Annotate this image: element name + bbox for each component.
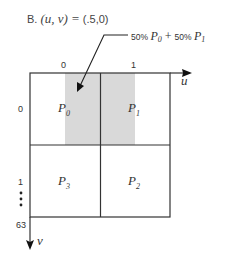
- v-ellipsis-dot: [20, 204, 23, 207]
- v-tick-1: 1: [18, 177, 23, 187]
- cell-label-p3: P3: [58, 173, 70, 191]
- callout-var-b: P1: [194, 29, 205, 43]
- title-equals: =: [71, 11, 80, 26]
- v-axis-label: v: [37, 233, 43, 249]
- v-tick-63: 63: [16, 220, 26, 230]
- v-ellipsis-dot: [20, 198, 23, 201]
- title-lhs: (u, v): [40, 11, 67, 26]
- figure-title: B. (u, v) = (.5,0): [27, 11, 109, 27]
- title-prefix: B.: [27, 13, 37, 25]
- title-rhs: (.5,0): [83, 13, 109, 25]
- interpolation-callout: 50% P0 + 50% P1: [131, 29, 205, 44]
- cell-label-p0: P0: [58, 100, 70, 118]
- v-tick-0: 0: [18, 104, 23, 114]
- cell-label-p2: P2: [128, 173, 140, 191]
- callout-weight-a: 50%: [131, 32, 148, 42]
- callout-plus: +: [164, 29, 172, 43]
- u-axis-label: u: [181, 73, 188, 89]
- v-ellipsis-dot: [20, 192, 23, 195]
- callout-var-a: P0: [150, 29, 161, 43]
- u-tick-0: 0: [61, 60, 66, 70]
- callout-weight-b: 50%: [175, 32, 192, 42]
- u-tick-1: 1: [131, 60, 136, 70]
- cell-label-p1: P1: [128, 100, 140, 118]
